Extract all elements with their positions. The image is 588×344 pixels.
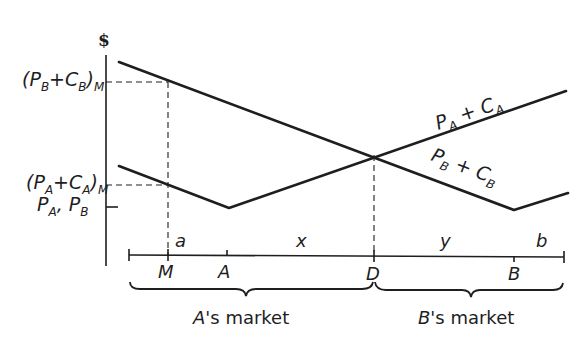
y-label-pb-cb-m-open: (P [22,68,41,90]
y-label-pb-cb-m-plus: +C [49,68,79,90]
spatial-competition-diagram: $ a x y b M A D B A's market B's market … [0,0,588,344]
y-label-pb-cb-m: (PB+CB)M [22,68,105,94]
y-label-pa-pb: PA, PB [37,193,88,219]
curve-label-pb-cb: PB + CB [427,143,501,192]
y-label-pa-pb-comma: , P [57,193,81,215]
y-label-pb-cb-m-sub2: B [78,80,86,94]
segment-label-x: x [295,230,307,251]
segment-label-b: b [536,230,547,251]
distance-axis [129,255,564,257]
y-axis-dollar-label: $ [98,30,110,50]
pb-plus-cb-curve [119,62,568,210]
b-market-firm: B [418,307,430,328]
a-market-firm: A [192,307,205,328]
b-market-suffix: 's market [430,307,514,328]
y-label-pb-cb-m-close: ) [85,68,94,90]
a-market-label: A's market [192,307,289,328]
y-label-pa-pb-s2: B [80,205,88,219]
a-market-brace [130,282,373,296]
y-label-pa-ca-m-close: ) [89,171,98,193]
a-market-suffix: 's market [205,307,289,328]
point-label-m: M [158,261,174,282]
curve-label-pa-ca: PA + CA [432,90,506,137]
b-market-label: B's market [418,307,514,328]
y-label-pa-ca-m-open: (P [26,171,45,193]
y-label-pb-cb-m-sub1: B [41,80,49,94]
point-label-b: B [508,263,520,284]
segment-label-a: a [175,230,186,251]
b-market-brace [375,282,563,297]
segment-label-y: y [439,230,451,251]
point-label-a: A [217,261,230,282]
y-label-pa-pb-s1: A [47,205,56,219]
y-label-pa-ca-m-sub2: A [81,183,90,197]
y-label-pa-ca-m-plus: +C [53,171,83,193]
y-label-pa-ca-m-sub3: M [98,183,109,197]
point-label-d: D [366,263,380,284]
y-label-pb-cb-m-sub3: M [94,80,105,94]
y-label-pa-pb-p1: P [37,193,49,215]
